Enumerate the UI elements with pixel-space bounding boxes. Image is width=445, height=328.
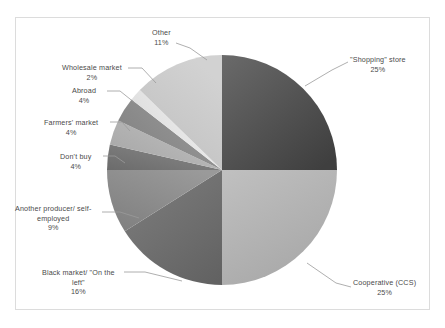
pie-label-shopping-store-pct: 25% <box>350 65 406 75</box>
pie-label-cooperative-name: Cooperative (CCS) <box>353 278 416 287</box>
pie-label-dont-buy-name: Don't buy <box>60 152 91 162</box>
pie-label-black-market-line2: left" <box>42 278 115 288</box>
leader-line-shopping-store <box>305 62 348 86</box>
pie-label-abroad: Abroad 4% <box>72 86 96 105</box>
pie-label-abroad-name: Abroad <box>72 86 96 96</box>
pie-label-farmers-market-name: Farmers' market <box>44 118 98 128</box>
pie-slice-cooperative <box>222 170 337 285</box>
pie-label-another-producer: Another producer/ self- employed 9% <box>15 204 91 233</box>
pie-label-other-pct: 11% <box>152 38 171 48</box>
pie-label-black-market-line1: Black market/ "On the <box>42 268 115 278</box>
leader-line-cooperative <box>307 263 351 287</box>
pie-label-another-producer-line2: employed <box>15 214 91 224</box>
pie-label-farmers-market-pct: 4% <box>44 128 98 138</box>
pie-label-farmers-market: Farmers' market 4% <box>44 118 98 137</box>
pie-label-abroad-pct: 4% <box>72 96 96 106</box>
pie-label-another-producer-line1: Another producer/ self- <box>15 204 91 214</box>
pie-chart: "Shopping" store 25% Cooperative (CCS) 2… <box>0 0 445 328</box>
pie-label-other: Other 11% <box>152 28 171 47</box>
pie-label-cooperative-pct: 25% <box>353 288 416 298</box>
pie-label-wholesale-market-name: Wholesale market <box>62 63 122 73</box>
pie-label-another-producer-pct: 9% <box>15 223 91 233</box>
pie-label-dont-buy: Don't buy 4% <box>60 152 91 171</box>
pie-slice-shopping-store <box>222 55 337 170</box>
pie-label-wholesale-market: Wholesale market 2% <box>62 63 122 82</box>
pie-label-cooperative: Cooperative (CCS) 25% <box>353 278 416 297</box>
pie-label-shopping-store: "Shopping" store 25% <box>350 55 406 74</box>
pie-label-black-market: Black market/ "On the left" 16% <box>42 268 115 297</box>
pie-label-shopping-store-name: "Shopping" store <box>350 55 406 64</box>
pie-label-dont-buy-pct: 4% <box>60 162 91 172</box>
pie-label-other-name: Other <box>152 28 171 38</box>
pie-label-wholesale-market-pct: 2% <box>62 73 122 83</box>
pie-label-black-market-pct: 16% <box>42 287 115 297</box>
